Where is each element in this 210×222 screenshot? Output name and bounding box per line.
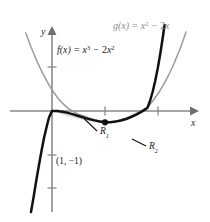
y-axis-arrowhead <box>48 26 57 35</box>
region-label-r1: R1 <box>99 126 109 139</box>
leader-line-r2 <box>132 139 146 146</box>
figure-container: g(x)=x2−2x f(x)=x3−2x2 R1 R2 (1, −1) y x <box>0 0 210 222</box>
region-label-r2: R2 <box>148 141 159 154</box>
function-label-f: f(x)=x3−2x2 <box>57 44 115 57</box>
point-marker-1-minus1 <box>102 119 108 125</box>
function-label-g: g(x)=x2−2x <box>113 20 170 33</box>
x-axis-label: x <box>190 117 196 128</box>
point-label-1-minus1: (1, −1) <box>56 156 82 167</box>
y-axis-label: y <box>40 26 46 37</box>
x-axis-arrowhead <box>190 107 199 116</box>
curve-comparison-chart: g(x)=x2−2x f(x)=x3−2x2 R1 R2 (1, −1) y x <box>0 0 210 222</box>
